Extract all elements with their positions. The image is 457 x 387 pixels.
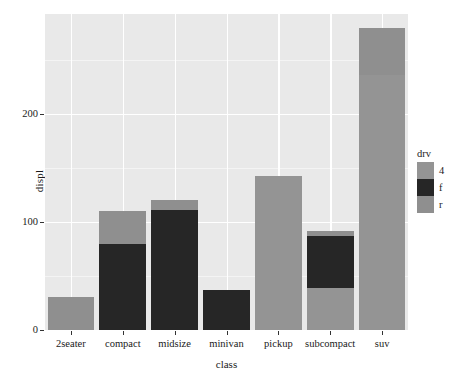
gridline-major-x-minivan bbox=[227, 14, 228, 331]
y-axis-title: displ bbox=[33, 146, 45, 216]
bar-2seater[interactable] bbox=[48, 297, 95, 330]
legend-item-label: f bbox=[439, 182, 443, 193]
x-tick-mark-pickup bbox=[278, 331, 279, 335]
bar-segment-compact-r bbox=[99, 211, 146, 243]
y-tick-label-100: 100 bbox=[4, 217, 38, 227]
bar-pickup[interactable] bbox=[255, 176, 302, 330]
y-tick-mark-200 bbox=[40, 114, 44, 115]
bar-minivan[interactable] bbox=[203, 290, 250, 330]
bar-segment-subcompact-f bbox=[307, 236, 354, 288]
bar-midsize[interactable] bbox=[151, 200, 198, 330]
bar-segment-suv-r bbox=[359, 28, 406, 76]
bar-subcompact[interactable] bbox=[307, 231, 354, 330]
legend-key-swatch-r bbox=[417, 196, 434, 213]
legend-item-f[interactable]: f bbox=[417, 179, 457, 196]
bar-segment-suv-4 bbox=[359, 75, 406, 330]
legend-item-label: r bbox=[439, 199, 443, 210]
y-tick-label-0: 0 bbox=[4, 325, 38, 335]
x-tick-mark-suv bbox=[382, 331, 383, 335]
x-tick-mark-compact bbox=[123, 331, 124, 335]
x-tick-label-pickup: pickup bbox=[264, 338, 293, 349]
bar-segment-pickup-4 bbox=[255, 176, 302, 330]
x-tick-label-2seater: 2seater bbox=[56, 338, 86, 349]
y-tick-mark-100 bbox=[40, 222, 44, 223]
y-tick-label-200: 200 bbox=[4, 109, 38, 119]
plot-panel bbox=[45, 14, 408, 331]
legend-item-4[interactable]: 4 bbox=[417, 162, 457, 179]
bar-segment-2seater-r bbox=[48, 297, 95, 330]
x-tick-mark-minivan bbox=[227, 331, 228, 335]
legend-item-r[interactable]: r bbox=[417, 196, 457, 213]
bar-segment-midsize-f bbox=[151, 210, 198, 330]
x-tick-label-suv: suv bbox=[375, 338, 390, 349]
bar-segment-compact-f bbox=[99, 244, 146, 330]
bar-segment-subcompact-r bbox=[307, 231, 354, 236]
gridline-major-x-2seater bbox=[71, 14, 72, 331]
legend-key-swatch-4 bbox=[417, 162, 434, 179]
x-tick-mark-2seater bbox=[71, 331, 72, 335]
x-axis-title: class bbox=[45, 358, 408, 370]
legend-rows: 4fr bbox=[417, 162, 457, 213]
x-tick-label-minivan: minivan bbox=[209, 338, 243, 349]
legend: drv 4fr bbox=[417, 148, 457, 213]
bar-chart: displ 200 100 0 2seater compact midsiz bbox=[0, 0, 457, 387]
bar-suv[interactable] bbox=[359, 28, 406, 330]
bar-compact[interactable] bbox=[99, 211, 146, 330]
y-tick-mark-0 bbox=[40, 330, 44, 331]
legend-key-swatch-f bbox=[417, 179, 434, 196]
x-tick-mark-subcompact bbox=[330, 331, 331, 335]
x-tick-label-subcompact: subcompact bbox=[305, 338, 355, 349]
legend-item-label: 4 bbox=[439, 165, 444, 176]
bar-segment-subcompact-4 bbox=[307, 288, 354, 330]
x-tick-label-midsize: midsize bbox=[158, 338, 191, 349]
legend-title: drv bbox=[417, 148, 457, 159]
x-tick-mark-midsize bbox=[175, 331, 176, 335]
x-tick-label-compact: compact bbox=[105, 338, 141, 349]
bar-segment-midsize-r bbox=[151, 200, 198, 210]
bar-segment-minivan-f bbox=[203, 290, 250, 330]
